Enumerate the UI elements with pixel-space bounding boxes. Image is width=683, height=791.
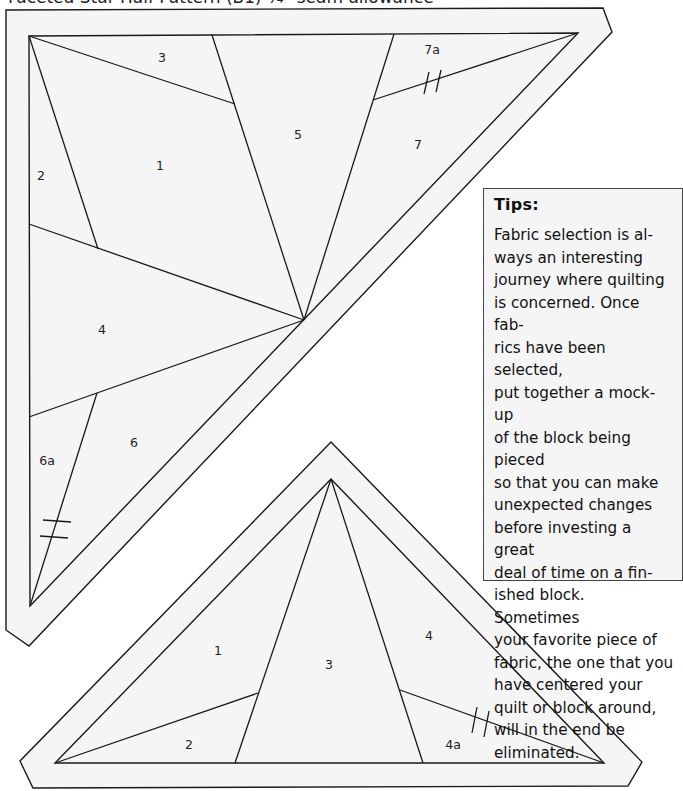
tips-body: Fabric selection is al- ways an interest… bbox=[494, 224, 674, 764]
piece-label-2: 2 bbox=[37, 168, 45, 183]
piece-label-b4a: 4a bbox=[445, 737, 461, 752]
piece-label-b4: 4 bbox=[425, 628, 433, 643]
piece-label-4: 4 bbox=[98, 322, 106, 337]
piece-label-b3: 3 bbox=[325, 657, 333, 672]
tips-title: Tips: bbox=[494, 195, 674, 214]
piece-label-7: 7 bbox=[414, 137, 422, 152]
piece-label-6a: 6a bbox=[39, 453, 55, 468]
piece-label-7a: 7a bbox=[424, 42, 440, 57]
piece-label-3: 3 bbox=[158, 50, 166, 65]
piece-label-1: 1 bbox=[156, 158, 164, 173]
tips-box: Tips: Fabric selection is al- ways an in… bbox=[483, 188, 683, 581]
piece-label-6: 6 bbox=[130, 435, 138, 450]
piece-label-b1: 1 bbox=[214, 643, 222, 658]
piece-label-b2: 2 bbox=[185, 737, 193, 752]
piece-label-5: 5 bbox=[294, 127, 302, 142]
